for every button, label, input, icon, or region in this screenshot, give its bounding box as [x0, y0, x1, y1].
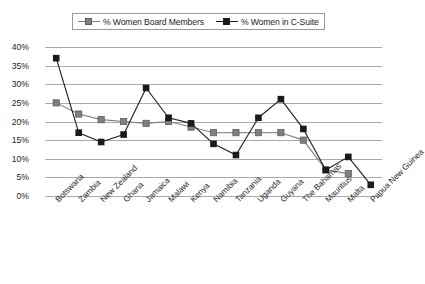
data-point-marker [75, 129, 82, 136]
legend-swatch-c-suite [216, 17, 238, 26]
chart-legend: % Women Board Members % Women in C-Suite [72, 13, 325, 30]
series-line-segment [79, 133, 101, 142]
data-point-marker [165, 114, 172, 121]
data-point-marker [210, 141, 217, 148]
data-point-marker [210, 130, 216, 136]
legend-label-c-suite: % Women in C-Suite [241, 17, 319, 27]
data-point-marker [76, 111, 82, 117]
data-point-marker [255, 114, 262, 121]
data-point-marker [98, 139, 105, 146]
legend-swatch-board-members [78, 17, 100, 26]
data-point-marker [278, 96, 285, 103]
y-axis-tick-label: 15% [0, 135, 29, 145]
series-line-segment [236, 118, 258, 155]
data-point-marker [98, 117, 104, 123]
data-point-marker [255, 130, 261, 136]
series-line-segment [281, 99, 303, 129]
series-line-segment [303, 140, 325, 170]
y-axis-tick-label: 20% [0, 117, 29, 127]
series-line-segment [303, 129, 325, 170]
y-axis-tick-label: 40% [0, 42, 29, 52]
x-axis-labels: BotswanaZambiaNew ZealandGhanaJamaicaMal… [45, 197, 382, 282]
series-line-segment [214, 144, 236, 155]
data-point-marker [278, 130, 284, 136]
series-line-segment [146, 88, 168, 118]
y-axis-tick-label: 35% [0, 61, 29, 71]
legend-marker-board-members [85, 18, 92, 25]
data-point-marker [300, 126, 307, 133]
data-point-marker [120, 131, 127, 138]
data-point-marker [345, 154, 352, 161]
y-axis-tick-label: 30% [0, 79, 29, 89]
y-axis-tick-label: 0% [0, 191, 29, 201]
data-point-marker [121, 118, 127, 124]
legend-item-board-members: % Women Board Members [78, 17, 204, 27]
data-point-marker [143, 120, 149, 126]
data-point-marker [188, 120, 195, 127]
data-point-marker [367, 182, 374, 189]
y-axis-tick-label: 5% [0, 172, 29, 182]
data-point-marker [300, 137, 306, 143]
y-axis-tick-label: 25% [0, 98, 29, 108]
series-line-segment [56, 58, 78, 133]
data-point-marker [53, 55, 60, 62]
data-point-marker [143, 85, 150, 92]
data-point-marker [53, 100, 59, 106]
data-point-marker [233, 130, 239, 136]
legend-marker-c-suite [223, 18, 230, 25]
legend-label-board-members: % Women Board Members [103, 17, 204, 27]
series-line-segment [258, 99, 280, 118]
series-line-segment [101, 135, 123, 142]
legend-item-c-suite: % Women in C-Suite [216, 17, 319, 27]
y-axis-tick-label: 10% [0, 154, 29, 164]
data-point-marker [233, 152, 240, 159]
series-line-segment [124, 88, 146, 135]
